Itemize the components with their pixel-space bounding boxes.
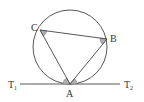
angle-marker-a-left (63, 78, 70, 84)
label-c: C (31, 22, 38, 33)
label-b: B (110, 33, 117, 44)
segment-cb (40, 30, 107, 39)
segment-ab (70, 39, 107, 84)
circle (33, 10, 107, 84)
geometry-diagram: C B A T1 T2 (0, 0, 144, 102)
segment-ca (40, 30, 70, 84)
label-t1: T1 (8, 79, 17, 91)
label-t2: T2 (124, 79, 133, 91)
label-a: A (66, 88, 74, 99)
